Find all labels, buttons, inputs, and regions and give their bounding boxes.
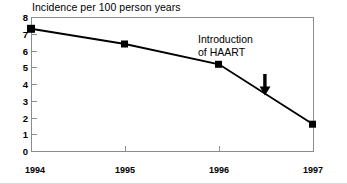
chart-figure: Incidence per 100 person years	[0, 0, 347, 184]
y-axis-label: 4	[16, 80, 28, 90]
x-axis-label: 1996	[197, 166, 241, 175]
annotation-line-1: Introduction	[198, 33, 253, 46]
data-series-line	[31, 17, 314, 152]
y-axis-label: 8	[16, 13, 28, 23]
x-axis-label: 1994	[13, 166, 57, 175]
y-axis-label: 2	[16, 114, 28, 124]
chart-title: Incidence per 100 person years	[32, 1, 181, 13]
y-axis-label: 6	[16, 47, 28, 57]
y-axis-label: 0	[16, 147, 28, 157]
plot-area	[31, 17, 314, 152]
y-axis-label: 3	[16, 97, 28, 107]
y-axis-label: 7	[16, 30, 28, 40]
annotation-down-arrow-icon	[259, 74, 271, 96]
x-axis-label: 1995	[103, 166, 147, 175]
x-axis-label: 1997	[291, 166, 335, 175]
annotation-line-2: of HAART	[198, 46, 253, 59]
annotation-text: Introduction of HAART	[198, 33, 253, 58]
y-axis-label: 1	[16, 130, 28, 140]
y-axis-label: 5	[16, 63, 28, 73]
